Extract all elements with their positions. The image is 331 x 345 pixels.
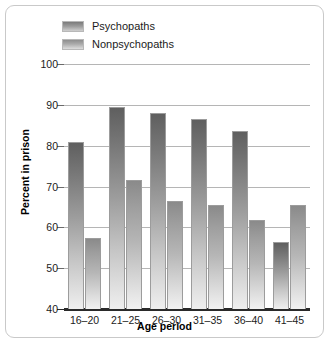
bar-nonpsychopaths-36-40[interactable] <box>249 220 265 309</box>
bar-group: 41–45 <box>269 64 310 309</box>
y-axis-tick-label: 80 <box>46 140 58 152</box>
legend-item-nonpsychopaths: Nonpsychopaths <box>62 35 174 53</box>
bar-nonpsychopaths-26-30[interactable] <box>167 201 183 309</box>
bar-groups: 16–2021–2526–3031–3536–4041–45 <box>64 64 310 309</box>
x-axis-title: Age period <box>6 320 323 332</box>
bar-group: 36–40 <box>228 64 269 309</box>
legend-item-psychopaths: Psychopaths <box>62 17 174 35</box>
bar-group: 31–35 <box>187 64 228 309</box>
y-axis-tick-label: 70 <box>46 181 58 193</box>
bar-psychopaths-36-40[interactable] <box>232 131 248 309</box>
bar-nonpsychopaths-16-20[interactable] <box>85 238 101 309</box>
y-axis-tick-label: 40 <box>46 303 58 315</box>
y-axis-tick-label: 50 <box>46 262 58 274</box>
bar-group: 21–25 <box>105 64 146 309</box>
y-axis-title: Percent in prison <box>19 117 31 227</box>
bar-psychopaths-26-30[interactable] <box>150 113 166 309</box>
bar-psychopaths-31-35[interactable] <box>191 119 207 309</box>
y-axis-tick-label: 100 <box>40 58 58 70</box>
bar-group: 16–20 <box>64 64 105 309</box>
bar-nonpsychopaths-41-45[interactable] <box>290 205 306 309</box>
bar-psychopaths-21-25[interactable] <box>109 107 125 309</box>
y-axis-tick-label: 60 <box>46 221 58 233</box>
bar-psychopaths-41-45[interactable] <box>273 242 289 309</box>
y-axis-tick-label: 90 <box>46 99 58 111</box>
legend-label-nonpsychopaths: Nonpsychopaths <box>92 38 174 50</box>
bar-nonpsychopaths-31-35[interactable] <box>208 205 224 309</box>
bar-nonpsychopaths-21-25[interactable] <box>126 180 142 309</box>
plot-area: 405060708090100 16–2021–2526–3031–3536–4… <box>64 64 310 309</box>
legend-label-psychopaths: Psychopaths <box>92 20 155 32</box>
bar-psychopaths-16-20[interactable] <box>68 142 84 309</box>
gridline <box>64 309 310 311</box>
nonpsychopaths-swatch-icon <box>62 39 84 50</box>
chart-legend: Psychopaths Nonpsychopaths <box>62 17 174 53</box>
bar-group: 26–30 <box>146 64 187 309</box>
chart-frame: Psychopaths Nonpsychopaths Percent in pr… <box>5 5 324 338</box>
psychopaths-swatch-icon <box>62 21 84 32</box>
